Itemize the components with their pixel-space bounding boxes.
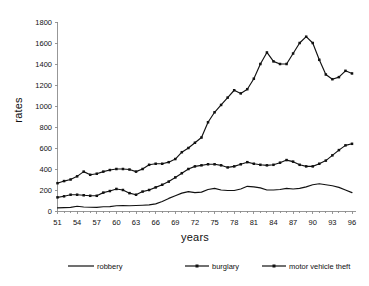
series-marker <box>233 89 236 92</box>
series-marker <box>338 149 341 152</box>
series-marker <box>207 121 210 124</box>
series-marker <box>56 196 59 199</box>
legend-label: burglary <box>212 262 239 271</box>
series-marker <box>82 170 85 173</box>
x-tick-label: 90 <box>309 218 317 227</box>
x-tick-label: 63 <box>132 218 140 227</box>
series-marker <box>239 163 242 166</box>
series-marker <box>115 188 118 191</box>
series-robbery <box>58 184 353 208</box>
series-marker <box>82 194 85 197</box>
series-marker <box>56 182 59 185</box>
series-marker <box>285 63 288 66</box>
series-marker <box>89 195 92 198</box>
y-tick-labels: 020040060080010001200140016001800 <box>35 18 52 216</box>
series-marker <box>200 136 203 139</box>
x-axis-title: years <box>150 231 240 243</box>
series-marker <box>233 165 236 168</box>
series-marker <box>96 195 99 198</box>
legend-label: motor vehicle theft <box>289 262 351 271</box>
y-tick-label: 200 <box>39 186 52 195</box>
series-marker <box>96 172 99 175</box>
chart-plot-area: 020040060080010001200140016001800 515457… <box>0 0 369 286</box>
series-marker <box>279 161 282 164</box>
chart-legend: robberyburglarymotor vehicle theft <box>68 262 351 271</box>
series-marker <box>331 78 334 81</box>
series-marker <box>318 163 321 166</box>
series-marker <box>161 184 164 187</box>
series-marker <box>194 142 197 145</box>
series-marker <box>63 195 66 198</box>
series-marker <box>259 164 262 167</box>
series-marker <box>174 158 177 161</box>
y-tick-label: 400 <box>39 165 52 174</box>
series-marker <box>311 165 314 168</box>
series-marker <box>298 42 301 45</box>
y-tick-label: 1200 <box>35 81 52 90</box>
series-marker <box>351 72 354 75</box>
series-marker <box>266 164 269 167</box>
series-marker <box>154 163 157 166</box>
x-tick-label: 78 <box>230 218 238 227</box>
y-axis-title: rates <box>12 80 24 140</box>
series-marker <box>325 159 328 162</box>
series-marker <box>292 52 295 55</box>
series-marker <box>311 42 314 45</box>
series-marker <box>135 193 138 196</box>
x-tick-label: 60 <box>112 218 120 227</box>
series-marker <box>246 161 249 164</box>
series-marker <box>174 176 177 179</box>
series-marker <box>292 160 295 163</box>
x-tick-label: 93 <box>328 218 336 227</box>
series-marker <box>141 168 144 171</box>
x-tick-label: 72 <box>191 218 199 227</box>
series-marker <box>154 186 157 189</box>
legend-swatch-marker <box>273 265 276 268</box>
series-line <box>58 37 353 183</box>
series-marker <box>69 193 72 196</box>
series-marker <box>259 63 262 66</box>
series-marker <box>141 190 144 193</box>
x-tick-labels: 51545760636669727578818487909396 <box>53 218 356 227</box>
x-tick-label: 96 <box>348 218 356 227</box>
series-marker <box>181 172 184 175</box>
x-tick-label: 54 <box>73 218 81 227</box>
series-marker <box>266 51 269 54</box>
series-marker <box>213 163 216 166</box>
series-marker <box>102 170 105 173</box>
series-marker <box>102 191 105 194</box>
y-tick-label: 1600 <box>35 39 52 48</box>
series-marker <box>325 73 328 76</box>
series-motor-vehicle-theft <box>56 35 353 184</box>
x-tick-label: 75 <box>210 218 218 227</box>
series-marker <box>148 189 151 192</box>
series-marker <box>226 166 229 169</box>
series-marker <box>207 163 210 166</box>
series-marker <box>194 165 197 168</box>
legend-item-robbery: robbery <box>68 262 123 271</box>
series-marker <box>115 168 118 171</box>
series-line <box>58 144 353 198</box>
series-marker <box>161 163 164 166</box>
series-marker <box>272 164 275 167</box>
series-marker <box>351 143 354 146</box>
series-marker <box>76 193 79 196</box>
series-marker <box>181 151 184 154</box>
series-marker <box>109 169 112 172</box>
series-marker <box>135 170 138 173</box>
series-marker <box>187 147 190 150</box>
x-tick-label: 81 <box>250 218 258 227</box>
series-marker <box>279 63 282 66</box>
series-marker <box>220 104 223 107</box>
series-marker <box>253 163 256 166</box>
x-tick-label: 66 <box>151 218 159 227</box>
series-marker <box>213 111 216 114</box>
series-marker <box>109 190 112 193</box>
series-marker <box>298 164 301 167</box>
y-tick-label: 600 <box>39 144 52 153</box>
legend-item-burglary: burglary <box>185 262 239 271</box>
series-marker <box>305 165 308 168</box>
series-marker <box>148 164 151 167</box>
series-marker <box>69 178 72 181</box>
series-marker <box>128 168 131 171</box>
